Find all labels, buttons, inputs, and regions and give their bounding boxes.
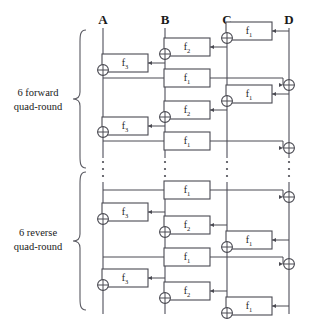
xor-node (160, 112, 171, 123)
ellipsis-group (102, 161, 290, 177)
forward-label-line1: 6 forward (17, 87, 59, 98)
group-label-reverse: 6 reverse quad-round (14, 227, 63, 252)
arrowhead-icon (272, 304, 276, 308)
forward-label-line2: quad-round (14, 101, 63, 112)
function-box: f1 (164, 69, 210, 87)
arrowhead-icon (148, 210, 152, 214)
xor-node (222, 308, 233, 319)
function-box: f1 (164, 181, 210, 199)
function-box-group: f1 f2 f3 f1 f1 f2 f3 f1 (102, 22, 272, 315)
cipher-network-diagram: A B C D (0, 0, 312, 329)
xor-node (222, 33, 233, 44)
forward-brace (73, 30, 86, 168)
vertical-ellipsis (288, 161, 290, 177)
function-box: f1 (164, 132, 210, 150)
wire-label-A: A (98, 12, 108, 27)
conn-f1-to-xor-d-rrow5 (206, 257, 283, 264)
arrowhead-icon (279, 146, 283, 150)
xor-node (160, 49, 171, 60)
arrowhead-icon (272, 238, 276, 242)
xor-node (98, 214, 109, 225)
function-box: f1 (164, 248, 210, 266)
vertical-ellipsis (164, 161, 166, 177)
arrowhead-icon (148, 276, 152, 280)
arrowhead-icon (272, 92, 276, 96)
conn-f1-to-xor-d-row8 (206, 141, 283, 148)
arrowhead-icon (279, 262, 283, 266)
reverse-brace (73, 172, 86, 310)
arrowhead-icon (210, 223, 214, 227)
group-label-forward: 6 forward quad-round (14, 87, 63, 112)
xor-node (160, 293, 171, 304)
wire-label-B: B (161, 12, 170, 27)
xor-node (98, 65, 109, 76)
reverse-label-line2: quad-round (14, 241, 63, 252)
wire-label-D: D (284, 12, 293, 27)
reverse-label-line1: 6 reverse (19, 227, 58, 238)
conn-f1-to-xor-d-row4 (206, 78, 283, 85)
vertical-ellipsis (102, 161, 104, 177)
arrowhead-icon (148, 61, 152, 65)
xor-node (98, 127, 109, 138)
xor-node (98, 280, 109, 291)
brace-group (73, 30, 86, 310)
arrowhead-icon (210, 45, 214, 49)
arrowhead-icon (210, 108, 214, 112)
arrowhead-icon (272, 29, 276, 33)
xor-node (284, 259, 295, 270)
xor-node (284, 192, 295, 203)
vertical-ellipsis (226, 161, 228, 177)
xor-node (222, 242, 233, 253)
xor-node (284, 80, 295, 91)
arrowhead-icon (279, 195, 283, 199)
xor-node (222, 96, 233, 107)
xor-node (284, 143, 295, 154)
conn-f1-to-xor-d-rrow1 (206, 190, 283, 197)
xor-node (160, 227, 171, 238)
arrowhead-icon (148, 124, 152, 128)
arrowhead-icon (210, 289, 214, 293)
arrowhead-icon (279, 83, 283, 87)
